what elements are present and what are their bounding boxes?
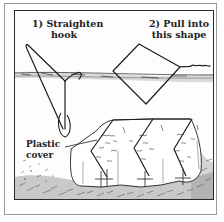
step-2-label: 2) Pull into this shape (146, 18, 212, 40)
plastic-cover-callout: Plastic cover (26, 139, 62, 161)
step-1-line2: hook (32, 29, 96, 40)
hanger-straighten-hook (26, 45, 81, 129)
wire-loop (58, 113, 70, 137)
callout-line2: cover (26, 150, 62, 161)
horizon-band (15, 72, 214, 82)
step-2-line1: 2) Pull into (146, 18, 212, 29)
step-2-line2: this shape (146, 29, 212, 40)
plastic-cover (70, 119, 201, 187)
step-1-label: 1) Straighten hook (32, 18, 96, 40)
step-1-line1: 1) Straighten (32, 18, 96, 29)
callout-line1: Plastic (26, 139, 62, 150)
